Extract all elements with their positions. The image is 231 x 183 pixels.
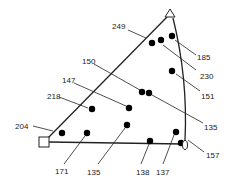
point-label: 171: [55, 167, 69, 176]
triangle-vertex-icon: [165, 9, 175, 17]
leader-line: [128, 30, 146, 38]
leader-line: [141, 144, 149, 164]
data-point: [173, 129, 179, 135]
diagram-canvas: 2491852301501511472181352041571711351381…: [0, 0, 231, 183]
leader-line: [33, 126, 53, 131]
leader-line: [152, 95, 203, 123]
point-label: 218: [47, 92, 61, 101]
point-label: 157: [206, 151, 220, 160]
data-point: [147, 138, 153, 144]
point-label: 147: [62, 76, 76, 85]
bottom-edge: [49, 142, 183, 144]
data-point: [149, 40, 155, 46]
leader-line: [175, 40, 196, 55]
data-point: [84, 130, 90, 136]
data-point: [124, 122, 130, 128]
data-points: [59, 33, 184, 146]
square-vertex-icon: [39, 137, 49, 147]
data-point: [89, 106, 95, 112]
data-point: [169, 68, 175, 74]
point-label: 204: [15, 122, 29, 131]
point-label: 137: [156, 168, 170, 177]
point-labels: 2491852301501511472181352041571711351381…: [15, 22, 220, 177]
leader-line: [176, 74, 200, 91]
circle-vertex-icon: [183, 141, 188, 150]
data-point: [139, 89, 145, 95]
point-label: 151: [201, 92, 215, 101]
point-label: 150: [82, 57, 96, 66]
point-label: 230: [200, 72, 214, 81]
ternary-diagram: 2491852301501511472181352041571711351381…: [0, 0, 231, 183]
leader-line: [74, 83, 126, 106]
data-point: [146, 90, 152, 96]
leader-line: [163, 135, 174, 164]
data-point: [158, 37, 164, 43]
data-point: [126, 105, 132, 111]
leader-line: [188, 140, 204, 152]
leader-line: [64, 136, 85, 164]
point-label: 135: [87, 168, 101, 177]
data-point: [59, 130, 65, 136]
data-point: [169, 33, 175, 39]
point-label: 185: [197, 53, 211, 62]
point-label: 138: [136, 168, 150, 177]
leader-line: [98, 128, 125, 164]
point-label: 249: [112, 22, 126, 31]
point-label: 135: [204, 123, 218, 132]
